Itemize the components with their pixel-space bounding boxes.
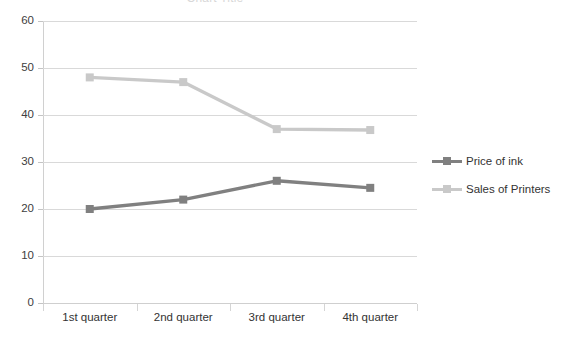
x-axis-tick-label: 3rd quarter xyxy=(230,312,324,324)
y-axis-tick xyxy=(38,115,43,116)
x-axis-tick-label: 4th quarter xyxy=(324,312,418,324)
legend-label: Price of ink xyxy=(466,155,523,167)
legend-swatch-icon xyxy=(432,155,462,167)
gridline xyxy=(43,21,417,22)
series-sales-of-printers xyxy=(86,73,375,134)
data-point-marker xyxy=(179,78,187,86)
legend: Price of inkSales of Printers xyxy=(432,150,562,206)
legend-swatch-icon xyxy=(432,183,462,195)
y-axis-tick-label: 30 xyxy=(0,156,34,168)
y-axis-tick xyxy=(38,256,43,257)
x-axis-tick xyxy=(230,304,231,311)
line-chart: Chart Title 0102030405060 1st quarter2nd… xyxy=(0,0,564,344)
y-axis-tick-label: 10 xyxy=(0,250,34,262)
x-axis-tick xyxy=(417,304,418,311)
gridline xyxy=(43,115,417,116)
series-line xyxy=(90,181,371,209)
gridline xyxy=(43,256,417,257)
legend-label: Sales of Printers xyxy=(466,183,550,195)
y-axis-tick-label: 0 xyxy=(0,297,34,309)
y-axis-tick-label: 50 xyxy=(0,62,34,74)
data-point-marker xyxy=(86,73,94,81)
series-line xyxy=(90,77,371,130)
legend-marker xyxy=(443,185,451,193)
data-point-marker xyxy=(366,126,374,134)
y-axis-tick-label: 20 xyxy=(0,203,34,215)
y-axis-tick-label: 40 xyxy=(0,109,34,121)
chart-title-cutoff: Chart Title xyxy=(0,0,430,3)
legend-item[interactable]: Price of ink xyxy=(432,150,562,172)
x-axis-tick xyxy=(324,304,325,311)
x-axis-tick xyxy=(137,304,138,311)
y-axis-tick xyxy=(38,68,43,69)
legend-marker xyxy=(443,157,451,165)
y-axis-tick xyxy=(38,21,43,22)
data-point-marker xyxy=(273,125,281,133)
data-point-marker xyxy=(273,177,281,185)
y-axis-tick xyxy=(38,162,43,163)
legend-item[interactable]: Sales of Printers xyxy=(432,178,562,200)
gridline xyxy=(43,209,417,210)
x-axis-tick-label: 1st quarter xyxy=(43,312,137,324)
data-point-marker xyxy=(366,184,374,192)
x-axis-tick xyxy=(43,304,44,311)
gridline xyxy=(43,68,417,69)
series-price-of-ink xyxy=(86,177,375,213)
y-axis-tick-label: 60 xyxy=(0,15,34,27)
y-axis-tick xyxy=(38,209,43,210)
data-point-marker xyxy=(179,196,187,204)
gridline xyxy=(43,162,417,163)
x-axis-tick-label: 2nd quarter xyxy=(137,312,231,324)
